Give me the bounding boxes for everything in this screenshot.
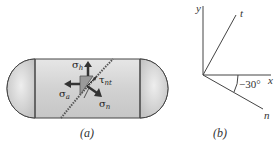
angle-label: −30° [239, 78, 261, 90]
caption-a: (a) [80, 126, 94, 140]
t-axis [203, 15, 236, 75]
n-axis-label: n [264, 109, 270, 121]
t-axis-label: t [240, 7, 244, 19]
y-axis-label: y [195, 2, 201, 14]
left-end-cap [7, 59, 35, 118]
angle-arc [234, 75, 238, 92]
right-end-cap [140, 59, 168, 118]
caption-b: (b) [213, 126, 227, 140]
pressure-vessel-diagram: σh σa σn τnt (a) y t x n −30° (b) [0, 0, 274, 145]
x-axis-label: x [267, 74, 273, 86]
axes-diagram [203, 6, 271, 109]
